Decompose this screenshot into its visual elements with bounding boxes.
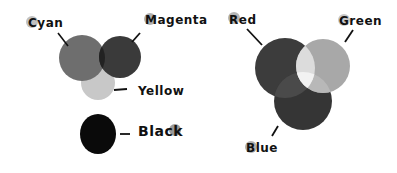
blue-leader-line xyxy=(272,126,278,136)
magenta-circle xyxy=(99,36,141,78)
cmyk-diagram: Cyan Magenta Yellow Black xyxy=(26,13,208,154)
black-circle xyxy=(80,114,116,154)
magenta-label: Magenta xyxy=(145,13,208,27)
cyan-circle xyxy=(59,35,105,81)
green-label: Green xyxy=(339,14,382,28)
red-label: Red xyxy=(229,13,256,27)
red-leader-line xyxy=(247,29,262,45)
color-models-diagram: Cyan Magenta Yellow Black Red xyxy=(0,0,397,173)
magenta-leader-line xyxy=(132,33,140,42)
green-leader-line xyxy=(345,30,353,42)
rgb-diagram: Red Green Blue xyxy=(228,12,382,155)
yellow-label: Yellow xyxy=(137,84,184,98)
yellow-leader-line xyxy=(114,89,127,90)
cyan-label: Cyan xyxy=(28,16,63,30)
cyan-leader-line xyxy=(58,33,68,46)
blue-label: Blue xyxy=(246,141,278,155)
black-label: Black xyxy=(138,123,183,139)
